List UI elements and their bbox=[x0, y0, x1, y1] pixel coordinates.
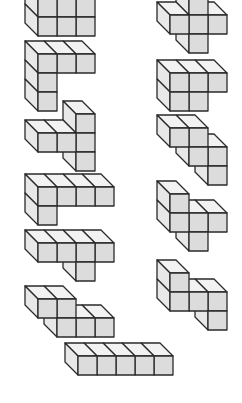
cube-front-face bbox=[170, 194, 189, 213]
cube-front-face bbox=[170, 15, 189, 34]
cube-front-face bbox=[38, 92, 57, 111]
piece-3 bbox=[25, 101, 95, 171]
cube-front-face bbox=[76, 133, 95, 152]
cube-front-face bbox=[189, 92, 208, 111]
piece-11 bbox=[157, 181, 227, 251]
cube-front-face bbox=[57, 187, 76, 206]
cube-front-face bbox=[154, 356, 173, 375]
cube-front-face bbox=[170, 92, 189, 111]
cube-front-face bbox=[95, 243, 114, 262]
piece-1 bbox=[25, 0, 95, 36]
cube-front-face bbox=[57, 243, 76, 262]
cube-front-face bbox=[170, 213, 189, 232]
piece-5 bbox=[25, 230, 114, 281]
cube-front-face bbox=[76, 0, 95, 17]
cube-front-face bbox=[189, 232, 208, 251]
piece-9 bbox=[157, 60, 227, 111]
cube-front-face bbox=[189, 147, 208, 166]
cube-front-face bbox=[208, 311, 227, 330]
cube-front-face bbox=[135, 356, 154, 375]
cube-front-face bbox=[76, 262, 95, 281]
cube-front-face bbox=[78, 356, 97, 375]
pieces-group bbox=[25, 0, 227, 375]
cube-front-face bbox=[97, 356, 116, 375]
cube-front-face bbox=[170, 128, 189, 147]
cube-front-face bbox=[57, 318, 76, 337]
cube-front-face bbox=[116, 356, 135, 375]
cube-front-face bbox=[38, 0, 57, 17]
cube-front-face bbox=[95, 187, 114, 206]
cube-front-face bbox=[38, 54, 57, 73]
cube-front-face bbox=[208, 166, 227, 185]
piece-10 bbox=[157, 115, 227, 185]
cube-front-face bbox=[170, 292, 189, 311]
cube-front-face bbox=[76, 187, 95, 206]
piece-2 bbox=[25, 41, 95, 111]
piece-12 bbox=[157, 260, 227, 330]
cube-front-face bbox=[38, 299, 57, 318]
cube-front-face bbox=[170, 73, 189, 92]
cube-front-face bbox=[57, 0, 76, 17]
cube-front-face bbox=[38, 206, 57, 225]
cube-front-face bbox=[57, 299, 76, 318]
cube-front-face bbox=[170, 273, 189, 292]
polycube-diagram bbox=[0, 0, 242, 403]
cube-front-face bbox=[189, 0, 208, 15]
cube-front-face bbox=[95, 318, 114, 337]
cube-front-face bbox=[208, 15, 227, 34]
piece-8 bbox=[157, 0, 227, 53]
cube-front-face bbox=[38, 17, 57, 36]
cube-front-face bbox=[57, 54, 76, 73]
cube-front-face bbox=[76, 318, 95, 337]
cube-front-face bbox=[189, 34, 208, 53]
cube-front-face bbox=[38, 133, 57, 152]
cube-front-face bbox=[38, 73, 57, 92]
cube-front-face bbox=[38, 243, 57, 262]
cube-front-face bbox=[57, 133, 76, 152]
cube-front-face bbox=[208, 292, 227, 311]
cube-front-face bbox=[76, 17, 95, 36]
cube-front-face bbox=[189, 15, 208, 34]
piece-7 bbox=[65, 343, 173, 375]
cube-front-face bbox=[208, 213, 227, 232]
cube-front-face bbox=[208, 147, 227, 166]
cube-front-face bbox=[208, 73, 227, 92]
cube-front-face bbox=[76, 152, 95, 171]
cube-front-face bbox=[76, 243, 95, 262]
cube-front-face bbox=[76, 114, 95, 133]
cube-front-face bbox=[189, 213, 208, 232]
cube-front-face bbox=[38, 187, 57, 206]
cube-front-face bbox=[76, 54, 95, 73]
cube-front-face bbox=[189, 292, 208, 311]
cube-front-face bbox=[189, 128, 208, 147]
cube-front-face bbox=[57, 17, 76, 36]
cube-front-face bbox=[189, 73, 208, 92]
piece-6 bbox=[25, 286, 114, 337]
piece-4 bbox=[25, 174, 114, 225]
